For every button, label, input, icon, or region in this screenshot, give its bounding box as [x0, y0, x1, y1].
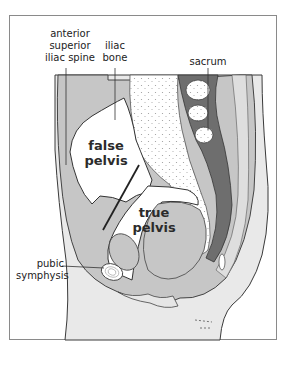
sacral-segment [195, 127, 213, 143]
label-line: superior [42, 40, 98, 52]
label-line: false [84, 138, 128, 153]
label-false-pelvis: false pelvis [84, 138, 128, 168]
label-line: pelvis [132, 220, 176, 235]
sacral-segment [188, 105, 208, 121]
label-anterior-superior-iliac-spine: anterior superior iliac spine [42, 28, 98, 64]
label-line: pelvis [84, 153, 128, 168]
label-pubic-symphysis: pubic symphysis [16, 258, 64, 282]
label-iliac-bone: iliac bone [98, 40, 132, 64]
label-line: iliac spine [42, 52, 98, 64]
label-line: true [132, 205, 176, 220]
label-line: bone [98, 52, 132, 64]
label-line: symphysis [16, 270, 64, 282]
sacral-segment [186, 80, 210, 100]
label-true-pelvis: true pelvis [132, 205, 176, 235]
label-line: anterior [42, 28, 98, 40]
label-sacrum: sacrum [186, 56, 230, 68]
label-line: iliac [98, 40, 132, 52]
label-line: pubic [16, 258, 64, 270]
label-line: sacrum [186, 56, 230, 68]
